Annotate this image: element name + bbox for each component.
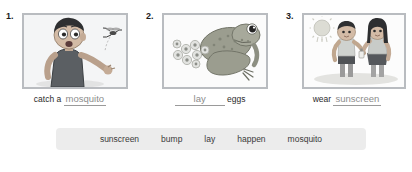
caption-2-answer[interactable]: lay — [175, 94, 225, 106]
word-bank-item-mosquito[interactable]: mosquito — [288, 134, 323, 144]
item-number-2: 2. — [146, 11, 154, 21]
picture-frame-2 — [162, 13, 268, 89]
caption-3-answer[interactable]: sunscreen — [333, 94, 381, 106]
caption-3: wear sunscreen — [286, 94, 408, 106]
word-bank-item-lay[interactable]: lay — [204, 134, 215, 144]
boy-catching-mosquito-illustration — [24, 15, 126, 87]
picture-frame-3 — [302, 13, 406, 89]
exercise-item-1: 1. — [6, 8, 134, 120]
caption-3-prefix: wear — [313, 94, 331, 104]
caption-2: lay eggs — [146, 94, 274, 106]
exercise-item-2: 2. — [146, 8, 274, 120]
word-bank-item-happen[interactable]: happen — [237, 134, 265, 144]
exercise-item-3: 3. — [286, 8, 408, 120]
caption-2-suffix: eggs — [227, 94, 245, 104]
exercise-items-row: 1. — [0, 8, 412, 120]
word-bank: sunscreen bump lay happen mosquito — [56, 128, 366, 150]
caption-1-answer[interactable]: mosquito — [64, 94, 107, 106]
frog-with-eggs-illustration — [164, 15, 266, 87]
picture-frame-1 — [22, 13, 128, 89]
caption-1-prefix: catch a — [34, 94, 61, 104]
caption-1: catch a mosquito — [6, 94, 134, 106]
worksheet-page: 1. — [0, 0, 412, 172]
item-number-1: 1. — [6, 11, 14, 21]
word-bank-item-sunscreen[interactable]: sunscreen — [100, 134, 139, 144]
children-applying-sunscreen-illustration — [304, 15, 404, 87]
word-bank-item-bump[interactable]: bump — [161, 134, 182, 144]
item-number-3: 3. — [286, 11, 294, 21]
